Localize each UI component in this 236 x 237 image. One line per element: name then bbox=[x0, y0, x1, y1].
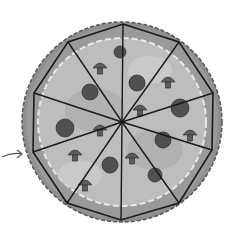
arrow-icon bbox=[2, 150, 22, 158]
pepperoni bbox=[129, 75, 145, 91]
pepperoni bbox=[114, 46, 126, 58]
pizza-illustration bbox=[0, 0, 236, 237]
pepperoni bbox=[82, 84, 98, 100]
pepperoni bbox=[102, 157, 118, 173]
pepperoni bbox=[56, 119, 74, 137]
